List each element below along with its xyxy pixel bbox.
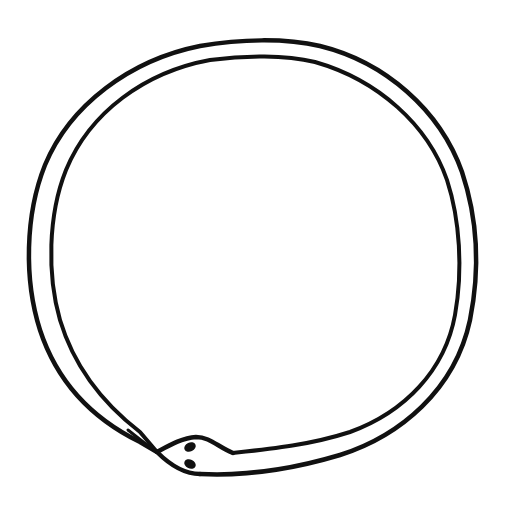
ouroboros-drawing [0,0,511,511]
background [0,0,511,511]
